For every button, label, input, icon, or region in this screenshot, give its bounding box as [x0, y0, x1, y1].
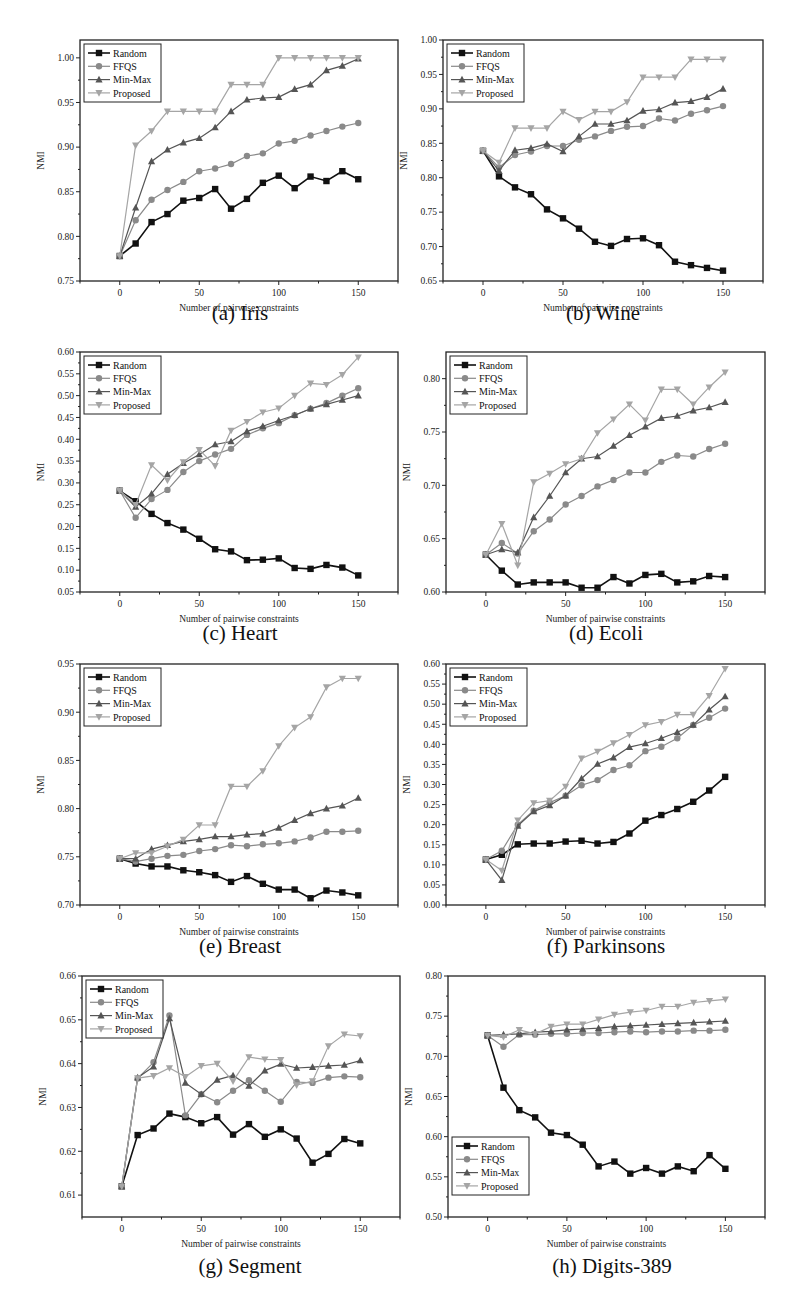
triangle-up-marker-icon: [626, 431, 633, 438]
circle-marker-icon: [578, 493, 584, 499]
legend-label: Random: [479, 672, 513, 683]
y-axis-label: NMI: [36, 151, 46, 169]
triangle-down-marker-icon: [291, 393, 298, 400]
triangle-down-marker-icon: [243, 419, 250, 426]
x-axis: 050100150Number of pairwise constraints: [446, 592, 765, 624]
legend-label: FFQS: [476, 61, 500, 72]
legend-label: Min-Max: [113, 698, 151, 709]
x-axis: 050100150Number of pairwise constraints: [82, 1217, 400, 1249]
y-tick-label: 0.30: [423, 780, 440, 790]
square-marker-icon: [706, 787, 712, 793]
circle-marker-icon: [164, 487, 170, 493]
y-tick-label: 0.65: [59, 1015, 76, 1025]
triangle-up-marker-icon: [722, 693, 729, 700]
x-tick-label: 100: [638, 599, 653, 609]
square-marker-icon: [180, 867, 186, 873]
square-marker-icon: [196, 195, 202, 201]
y-tick-label: 0.05: [423, 880, 440, 890]
legend: RandomFFQSMin-MaxProposed: [86, 980, 163, 1038]
triangle-down-marker-icon: [307, 714, 314, 721]
legend-label: Proposed: [476, 88, 513, 99]
square-marker-icon: [198, 1120, 204, 1126]
triangle-up-marker-icon: [132, 204, 139, 211]
square-marker-icon: [562, 838, 568, 844]
square-marker-icon: [658, 812, 664, 818]
y-tick-label: 0.70: [420, 242, 437, 252]
y-tick-label: 0.95: [420, 70, 437, 80]
triangle-up-marker-icon: [357, 1057, 364, 1064]
caption-iris: (a) Iris: [212, 301, 269, 326]
triangle-down-marker-icon: [626, 732, 633, 739]
triangle-down-marker-icon: [198, 1063, 205, 1070]
circle-marker-icon: [594, 483, 600, 489]
square-marker-icon: [307, 173, 313, 179]
circle-marker-icon: [164, 187, 170, 193]
x-tick-label: 50: [195, 288, 205, 298]
square-marker-icon: [339, 564, 345, 570]
y-tick-label: 0.80: [423, 374, 440, 384]
x-tick-label: 150: [716, 288, 731, 298]
legend-label: FFQS: [113, 61, 137, 72]
triangle-up-marker-icon: [703, 93, 710, 100]
circle-marker-icon: [459, 63, 465, 69]
y-tick-label: 0.00: [423, 900, 440, 910]
circle-marker-icon: [642, 469, 648, 475]
square-marker-icon: [246, 1121, 252, 1127]
triangle-up-marker-icon: [275, 824, 282, 831]
triangle-down-marker-icon: [500, 1034, 507, 1041]
circle-marker-icon: [626, 469, 632, 475]
y-tick-label: 0.63: [59, 1103, 76, 1113]
square-marker-icon: [659, 1170, 665, 1176]
square-marker-icon: [291, 886, 297, 892]
square-marker-icon: [309, 1159, 315, 1165]
x-tick-label: 100: [272, 288, 287, 298]
circle-marker-icon: [323, 128, 329, 134]
square-marker-icon: [610, 839, 616, 845]
circle-marker-icon: [96, 687, 102, 693]
circle-marker-icon: [260, 150, 266, 156]
circle-marker-icon: [148, 197, 154, 203]
y-axis: 0.700.750.800.850.900.95NMI: [36, 659, 80, 910]
circle-marker-icon: [276, 840, 282, 846]
square-marker-icon: [562, 579, 568, 585]
square-marker-icon: [291, 565, 297, 571]
square-marker-icon: [260, 180, 266, 186]
circle-marker-icon: [355, 385, 361, 391]
square-marker-icon: [548, 1129, 554, 1135]
circle-marker-icon: [212, 165, 218, 171]
y-tick-label: 0.75: [57, 276, 74, 286]
x-tick-label: 100: [636, 288, 651, 298]
square-marker-icon: [164, 520, 170, 526]
circle-marker-icon: [228, 161, 234, 167]
triangle-down-marker-icon: [325, 1043, 332, 1050]
y-tick-label: 0.15: [423, 840, 440, 850]
y-tick-label: 0.60: [423, 587, 440, 597]
square-marker-icon: [96, 674, 102, 680]
triangle-up-marker-icon: [196, 134, 203, 141]
square-marker-icon: [499, 567, 505, 573]
y-tick-label: 0.85: [57, 187, 74, 197]
square-marker-icon: [325, 1151, 331, 1157]
triangle-down-marker-icon: [578, 756, 585, 763]
x-tick-label: 0: [485, 1224, 490, 1234]
square-marker-icon: [500, 1084, 506, 1090]
circle-marker-icon: [325, 1074, 331, 1080]
series-random: [117, 168, 362, 259]
x-tick-label: 100: [639, 1224, 654, 1234]
square-marker-icon: [643, 1165, 649, 1171]
y-tick-label: 0.30: [57, 478, 74, 488]
x-tick-label: 100: [272, 912, 287, 922]
triangle-up-marker-icon: [227, 108, 234, 115]
y-tick-label: 0.10: [57, 565, 74, 575]
y-tick-label: 0.50: [57, 391, 74, 401]
y-tick-label: 0.25: [57, 500, 74, 510]
series-ffqs: [119, 1012, 364, 1189]
y-tick-label: 0.45: [423, 720, 440, 730]
caption-ecoli: (d) Ecoli: [569, 621, 643, 646]
circle-marker-icon: [357, 1074, 363, 1080]
y-axis: 0.600.650.700.750.80NMI: [402, 374, 446, 597]
x-axis-label: Number of pairwise constraints: [547, 1239, 667, 1249]
legend-label: Proposed: [481, 1181, 518, 1192]
series-ffqs: [483, 441, 729, 558]
y-tick-label: 0.55: [423, 679, 440, 689]
